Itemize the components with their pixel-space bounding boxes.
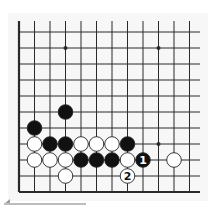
black-stone: [89, 153, 104, 168]
black-stone: 1: [136, 153, 151, 168]
black-stone: [120, 137, 135, 152]
white-stone: [27, 137, 42, 152]
black-stone: [58, 137, 73, 152]
white-stone: [74, 137, 89, 152]
star-point: [157, 142, 161, 146]
white-stone: [167, 153, 182, 168]
stone-move-number: 2: [124, 170, 132, 183]
black-stone: [43, 137, 58, 152]
white-stone: 2: [120, 169, 135, 184]
footer-rule: [4, 203, 86, 205]
black-stone: [74, 153, 89, 168]
black-stone: [105, 153, 120, 168]
stone-move-number: 1: [139, 154, 147, 167]
white-stone: [105, 137, 120, 152]
white-stone: [43, 153, 58, 168]
white-stone: [58, 153, 73, 168]
white-stone: [89, 137, 104, 152]
black-stone: [58, 105, 73, 120]
white-stone: [120, 153, 135, 168]
white-stone: [27, 153, 42, 168]
black-stone: [27, 121, 42, 136]
white-stone: [58, 169, 73, 184]
star-point: [157, 46, 161, 50]
star-point: [64, 46, 68, 50]
go-board: 12: [0, 0, 215, 210]
